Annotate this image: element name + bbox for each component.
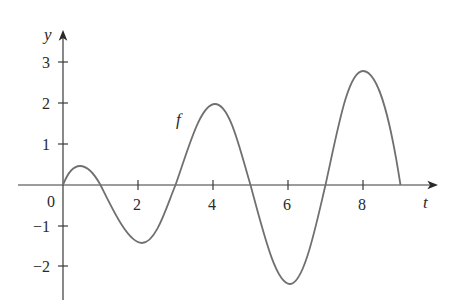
origin-label: 0 [47, 193, 55, 210]
x-tick-label-6: 6 [283, 196, 291, 213]
y-tick-label-neg2: −2 [33, 258, 50, 275]
x-tick-label-8: 8 [358, 196, 366, 213]
y-tick-label-neg1: −1 [33, 218, 50, 235]
y-axis-label: y [42, 25, 52, 44]
curve-label-f: f [176, 110, 183, 129]
y-tick-label-2: 2 [42, 95, 50, 112]
x-tick-label-4: 4 [208, 196, 216, 213]
x-axis-label: t [423, 193, 429, 212]
x-tick-label-2: 2 [133, 196, 141, 213]
y-tick-label-1: 1 [42, 136, 50, 153]
curve-f [63, 71, 401, 284]
chart: 0 2 4 6 8 3 2 1 −1 −2 y t f [0, 0, 451, 308]
y-tick-label-3: 3 [42, 54, 50, 71]
